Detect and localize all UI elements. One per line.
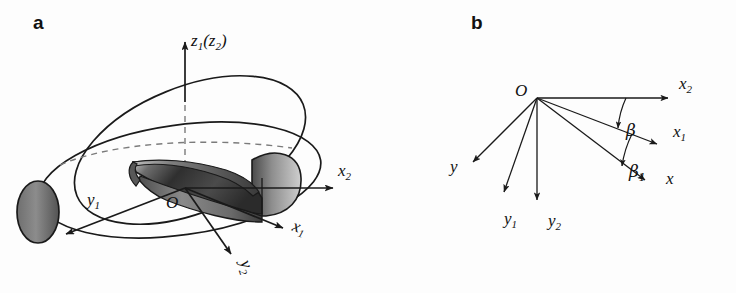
axis-label-y1: y1 (85, 190, 100, 211)
ray-y (473, 98, 537, 162)
ray-label-y1: y1 (502, 209, 517, 230)
axis-label-y2: y2 (234, 255, 259, 277)
origin-label-a: O (166, 193, 178, 212)
panel-a-letter: a (33, 12, 44, 33)
ray-label-y2: y2 (546, 211, 562, 232)
axis-label-x1-group: x1 (288, 216, 308, 240)
angle-label-beta: β (625, 120, 636, 140)
panel-b-letter: b (471, 12, 483, 33)
axis-label-x2: x2 (337, 161, 352, 182)
axis-label-z1z2: z1(z2) (190, 31, 227, 52)
cylinder-cap-left (17, 181, 59, 243)
panel-b: b O x2 x1 x y y1 y2 β β1 (448, 12, 693, 232)
origin-label-b: O (515, 81, 527, 100)
panel-a: a (17, 12, 352, 277)
axis-label-x1: x1 (288, 216, 308, 240)
axis-label-y2-group: y2 (234, 255, 259, 277)
ray-x1 (537, 98, 657, 144)
angle-label-beta1: β1 (628, 161, 646, 184)
ray-y1 (504, 98, 537, 192)
ray-label-y: y (448, 157, 458, 176)
ray-label-x2: x2 (678, 74, 693, 95)
ray-label-x: x (665, 169, 674, 188)
figure-canvas: a (0, 0, 736, 293)
ray-label-x1: x1 (672, 122, 686, 143)
figure-root: a (0, 0, 736, 293)
angle-arc-beta (618, 98, 626, 128)
